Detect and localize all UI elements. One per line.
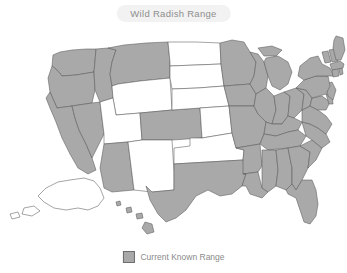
state-minnesota[interactable] <box>220 40 256 86</box>
state-mississippi[interactable] <box>262 150 278 192</box>
state-new-mexico[interactable] <box>128 140 174 192</box>
state-wyoming[interactable] <box>112 78 172 115</box>
state-iowa[interactable] <box>224 84 256 106</box>
state-north-dakota[interactable] <box>168 42 221 66</box>
state-south-dakota[interactable] <box>170 64 224 89</box>
us-map-svg <box>0 18 347 246</box>
us-range-map <box>0 18 347 246</box>
legend-label: Current Known Range <box>140 252 224 262</box>
state-alaska[interactable] <box>10 178 104 219</box>
state-florida[interactable] <box>286 180 318 224</box>
state-kansas[interactable] <box>200 106 232 138</box>
range-swatch-icon <box>122 251 134 263</box>
map-legend: Current Known Range <box>122 251 224 263</box>
state-hawaii[interactable] <box>116 201 154 234</box>
state-colorado[interactable] <box>140 108 202 140</box>
